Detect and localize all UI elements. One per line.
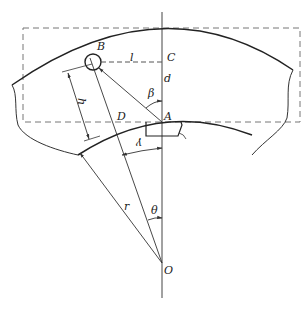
label-gamma: γ: [136, 138, 143, 149]
left-break-edge: [12, 85, 78, 155]
label-d: d: [164, 73, 171, 84]
label-c: C: [167, 52, 175, 63]
theta-angle-arc: [148, 218, 162, 220]
outer-arc: [12, 28, 293, 85]
right-break-edge: [252, 70, 293, 155]
diagram-canvas: [0, 0, 305, 310]
slot-tick: [179, 133, 186, 139]
label-r: r: [124, 201, 129, 212]
inner-arc: [78, 121, 252, 155]
label-a: A: [164, 111, 172, 122]
label-o: O: [164, 265, 173, 276]
label-h: h: [76, 98, 87, 105]
label-b: B: [97, 41, 105, 52]
h-extension-bottom: [84, 136, 100, 141]
label-l: l: [130, 52, 134, 63]
label-d-point: D: [117, 111, 126, 122]
h-dimension-line: [68, 73, 89, 139]
beta-angle-arc: [146, 101, 162, 108]
line-radius-r: [80, 153, 162, 263]
label-theta: θ: [151, 205, 158, 216]
label-beta: β: [148, 88, 154, 99]
